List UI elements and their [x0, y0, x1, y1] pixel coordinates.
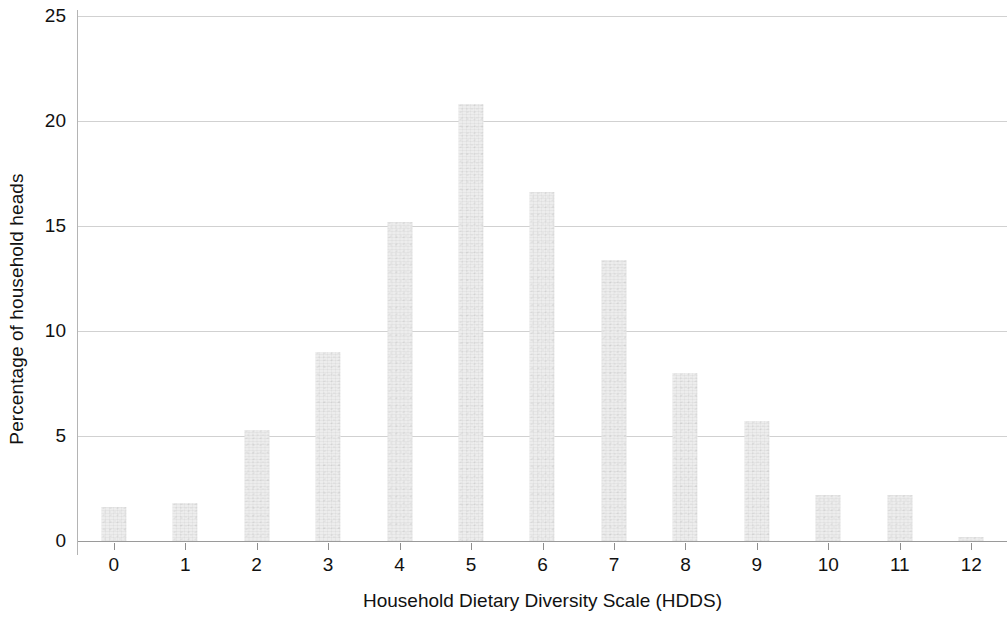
- x-axis-tick-labels: 0123456789101112: [78, 543, 1007, 583]
- x-tick-label: 6: [537, 554, 548, 576]
- x-tick-mark: [257, 543, 258, 550]
- x-tick-label: 7: [609, 554, 620, 576]
- bar: [459, 104, 484, 541]
- bar: [887, 495, 912, 541]
- x-tick-label: 2: [251, 554, 262, 576]
- bar-slot: [292, 14, 363, 543]
- x-tick-mark: [185, 543, 186, 550]
- x-tick-mark: [900, 543, 901, 550]
- bar: [101, 507, 126, 541]
- y-tick-label: 25: [0, 5, 75, 27]
- bar-slot: [221, 14, 292, 543]
- bar-slot: [936, 14, 1007, 543]
- x-tick-label: 9: [752, 554, 763, 576]
- bar-slot: [864, 14, 935, 543]
- y-axis-tick-labels: 0510152025: [0, 0, 75, 618]
- bar-slot: [435, 14, 506, 543]
- x-tick-label: 5: [466, 554, 477, 576]
- x-tick-mark: [685, 543, 686, 550]
- x-tick-mark: [828, 543, 829, 550]
- x-tick-label: 4: [394, 554, 405, 576]
- bar-slot: [793, 14, 864, 543]
- x-tick-mark: [971, 543, 972, 550]
- bar-slot: [507, 14, 578, 543]
- y-tick-label: 5: [0, 425, 75, 447]
- x-tick-label: 3: [323, 554, 334, 576]
- y-tick-label: 10: [0, 320, 75, 342]
- bar-slot: [364, 14, 435, 543]
- x-tick-label: 12: [961, 554, 982, 576]
- y-tick-label: 15: [0, 215, 75, 237]
- x-tick-mark: [614, 543, 615, 550]
- bar: [601, 260, 626, 541]
- x-tick-label: 10: [818, 554, 839, 576]
- bar: [173, 503, 198, 541]
- bar-slot: [78, 14, 149, 543]
- bar: [744, 421, 769, 541]
- plot-area: [78, 14, 1007, 543]
- x-tick-mark: [543, 543, 544, 550]
- bar-slot: [721, 14, 792, 543]
- bar: [387, 222, 412, 541]
- bar-series: [78, 14, 1007, 543]
- bar: [530, 192, 555, 541]
- x-tick-label: 11: [890, 554, 910, 576]
- x-tick-label: 8: [680, 554, 691, 576]
- x-tick-mark: [114, 543, 115, 550]
- bar: [316, 352, 341, 541]
- bar: [673, 373, 698, 541]
- bar-slot: [578, 14, 649, 543]
- bar-slot: [149, 14, 220, 543]
- y-tick-label: 0: [0, 530, 75, 552]
- x-tick-mark: [328, 543, 329, 550]
- x-tick-mark: [471, 543, 472, 550]
- x-axis-title: Household Dietary Diversity Scale (HDDS): [78, 590, 1007, 612]
- x-tick-label: 0: [108, 554, 119, 576]
- bar: [959, 537, 984, 541]
- bar: [816, 495, 841, 541]
- x-tick-mark: [757, 543, 758, 550]
- x-tick-mark: [400, 543, 401, 550]
- bar-chart: Percentage of household heads 0510152025…: [0, 0, 1007, 618]
- bar-slot: [650, 14, 721, 543]
- bar: [244, 430, 269, 541]
- y-tick-label: 20: [0, 110, 75, 132]
- x-tick-label: 1: [180, 554, 191, 576]
